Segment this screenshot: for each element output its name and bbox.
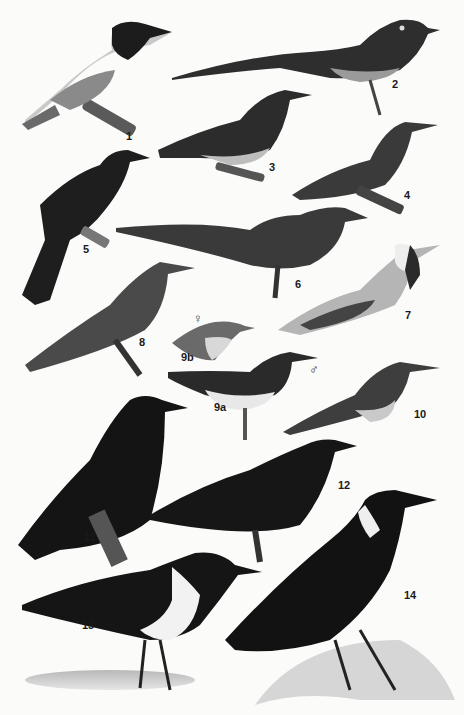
bird-plate: 1 2 3 4 5 6 7 8 9b 9a 10 11 12 13 14 ♀ ♂ (0, 0, 464, 715)
label-9a: 9a (214, 402, 226, 413)
label-12: 12 (338, 480, 350, 491)
bird-10 (283, 362, 440, 435)
label-14: 14 (404, 590, 416, 601)
label-2: 2 (392, 79, 398, 90)
bird-3 (158, 90, 312, 182)
label-8: 8 (139, 337, 145, 348)
bird-2 (172, 20, 440, 115)
label-3: 3 (269, 162, 275, 173)
label-10: 10 (414, 409, 426, 420)
bird-illustrations (0, 0, 464, 715)
label-7: 7 (405, 310, 411, 321)
bird-13 (22, 553, 262, 691)
label-9b: 9b (181, 352, 194, 363)
label-4: 4 (404, 190, 410, 201)
male-symbol-icon: ♂ (309, 363, 319, 376)
label-6: 6 (295, 279, 301, 290)
label-1: 1 (126, 131, 132, 142)
label-5: 5 (83, 244, 89, 255)
bird-4 (292, 122, 438, 215)
label-11: 11 (84, 532, 96, 543)
female-symbol-icon: ♀ (193, 312, 203, 325)
bird-1 (22, 22, 172, 137)
label-13: 13 (82, 620, 94, 631)
bird-11 (18, 396, 188, 567)
